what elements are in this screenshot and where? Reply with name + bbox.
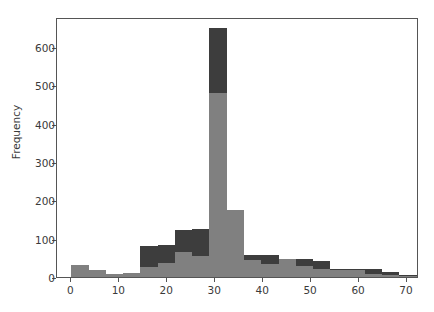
x-tick-mark (406, 278, 407, 282)
histogram-bars (57, 19, 417, 277)
y-tick-label: 200 (35, 196, 55, 206)
x-tick-label: 70 (391, 285, 421, 296)
x-tick-mark (358, 278, 359, 282)
histogram-bar (296, 266, 313, 277)
histogram-bar (71, 265, 88, 277)
histogram-bar (382, 275, 399, 277)
y-tick-label: 100 (35, 235, 55, 245)
y-axis-label: Frequency (10, 77, 22, 187)
y-tick-label: 400 (35, 120, 55, 130)
x-tick-label: 30 (199, 285, 229, 296)
histogram-bar (244, 260, 261, 277)
histogram-bar (140, 267, 157, 277)
y-tick-label: 500 (35, 81, 55, 91)
x-tick-label: 10 (103, 285, 133, 296)
histogram-bar (330, 270, 347, 277)
x-tick-mark (262, 278, 263, 282)
x-tick-label: 60 (343, 285, 373, 296)
plot-area (56, 18, 418, 278)
x-tick-label: 40 (247, 285, 277, 296)
histogram-figure: Frequency 0100200300400500600 0102030405… (0, 0, 434, 312)
histogram-bar (348, 270, 365, 277)
histogram-bar (192, 256, 209, 277)
histogram-bar (158, 263, 175, 277)
histogram-bar (175, 252, 192, 277)
y-tick-label: 300 (35, 158, 55, 168)
histogram-bar (261, 264, 278, 277)
x-tick-mark (310, 278, 311, 282)
histogram-bar (279, 259, 296, 277)
histogram-bar (399, 276, 416, 277)
x-tick-label: 0 (55, 285, 85, 296)
x-tick-label: 50 (295, 285, 325, 296)
y-tick-label: 0 (48, 273, 55, 283)
x-tick-mark (166, 278, 167, 282)
histogram-bar (313, 269, 330, 277)
histogram-bar (365, 274, 382, 277)
histogram-bar (209, 93, 226, 277)
x-tick-label: 20 (151, 285, 181, 296)
histogram-bar (89, 270, 106, 277)
x-tick-mark (118, 278, 119, 282)
histogram-bar (227, 210, 244, 277)
histogram-bar (123, 273, 140, 277)
x-tick-mark (70, 278, 71, 282)
histogram-bar (106, 274, 123, 277)
y-tick-label: 600 (35, 43, 55, 53)
x-tick-mark (214, 278, 215, 282)
